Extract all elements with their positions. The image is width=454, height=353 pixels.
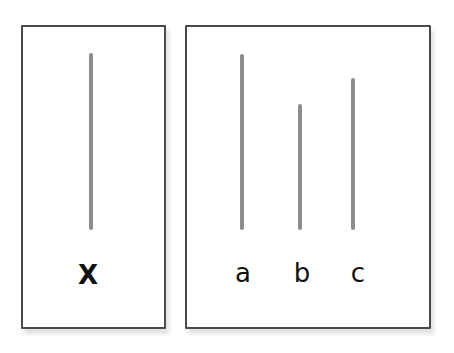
comparison-line-c [351,78,355,230]
comparison-label-b: b [294,260,311,286]
comparison-line-b [298,104,302,230]
comparison-label-a: a [235,260,251,286]
reference-line-x [89,53,93,230]
comparison-label-c: c [351,260,365,286]
comparison-line-a [240,54,244,230]
reference-label-x: X [78,262,98,288]
